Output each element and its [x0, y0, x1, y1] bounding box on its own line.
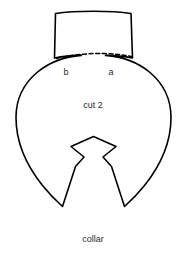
label-piece-name: collar: [58, 234, 128, 244]
label-point-b: b: [59, 67, 73, 77]
label-cut-quantity: cut 2: [63, 100, 123, 110]
collar-pattern-diagram: [0, 0, 186, 262]
label-point-a: a: [104, 67, 118, 77]
